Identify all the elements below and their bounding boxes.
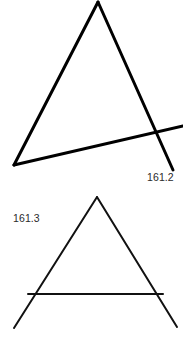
geometry-figure-canvas [0, 0, 183, 339]
upper-triangle-left-side [14, 2, 98, 165]
lower-figure-value-label: 161.3 [13, 212, 40, 224]
upper-figure-group [14, 2, 183, 170]
lower-triangle-right-side [97, 197, 177, 327]
upper-triangle-right-side [98, 2, 173, 170]
upper-transversal-line [14, 126, 183, 165]
upper-figure-value-label: 161.2 [147, 171, 174, 183]
